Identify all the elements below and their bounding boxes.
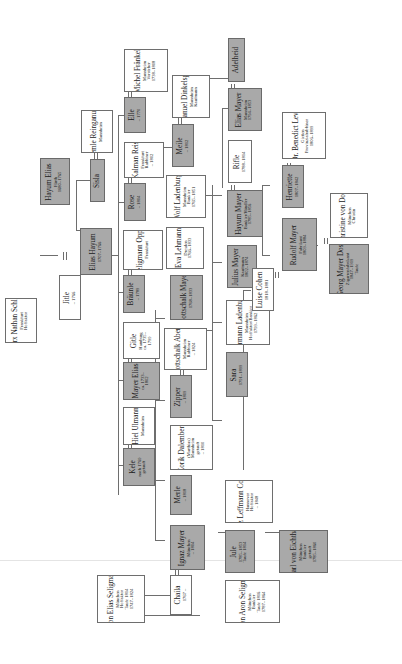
person-eva-lehmann: Eva LehmannDresden1766–1833 xyxy=(166,227,204,269)
connector xyxy=(212,322,222,323)
person-rudolf-mayer: Rudolf MayerFabrikant1809–1884 xyxy=(282,218,317,271)
person-georg-mayer-doss: Georg Mayer DossZigarrenfabrikant1847–19… xyxy=(329,244,369,294)
person-michel-fraenkel: Michel FränkelMannheimVorsteher1738–1808 xyxy=(124,49,168,92)
person-hayum-mayer: Hayum MayerBankier/Händler1785–1856 xyxy=(227,190,263,237)
connector xyxy=(212,262,222,263)
person-ignaz-mayer: Ignaz MayerMünchen– 1804 xyxy=(170,525,205,570)
person-elias-mayer: Elias MayerMannheim1794–1853 xyxy=(228,88,262,131)
connector xyxy=(262,255,270,256)
marriage-connector xyxy=(275,272,279,278)
connector xyxy=(212,420,222,421)
person-chaila: Chaila1767 – xyxy=(170,575,192,615)
connector xyxy=(118,115,119,495)
person-zipper: Zipper– 1809 xyxy=(170,375,192,418)
person-lemle-reinganum: Lemle ReinganumMannheim xyxy=(81,110,113,153)
person-merle: Merle– 1818 xyxy=(170,475,192,515)
person-simon-aron-seligmann: Simon Aron SeligmannMünchenBankierTaufe … xyxy=(225,580,280,623)
person-luise-cohen: Luise Cohen1818–1881 xyxy=(252,268,274,311)
person-emanuel-dinkelspiel: Emanuel DinkelspielMannheimKaufmann xyxy=(172,75,210,118)
marriage-connector xyxy=(324,238,328,244)
person-benedict-levi: Dr. Benedict LeviGießenProvinzialrabbine… xyxy=(282,112,326,159)
person-marx-nathan-schloss: Marx Nathan SchlossFrankfurtHoffaktor xyxy=(5,298,37,343)
person-wolf-ladenburg: Wolf LadenburgMannheimBankier1765–1851 xyxy=(166,175,206,218)
connector xyxy=(155,318,165,319)
person-karl-von-eichthal: Karl von EichthalMünchenBankiergetauft17… xyxy=(279,530,328,573)
family-tree-diagram: Hayum EliasFürth1680–1765 Lemle Reinganu… xyxy=(0,0,402,664)
person-jitle: Jitle– 1766 xyxy=(59,275,81,320)
person-hiel-ulmann: Hiel UlmannMannheim xyxy=(123,407,155,445)
person-sisla: Sisla xyxy=(90,159,105,202)
person-braeunle: Bräunle– 1789 xyxy=(123,275,145,313)
person-hayum-elias: Hayum EliasFürth1680–1765 xyxy=(40,158,70,205)
connector xyxy=(265,532,279,533)
person-elle: Elle– 1770 xyxy=(124,97,146,133)
person-herz-leffmann-cohen: Herz Leffmann CohenHannoverHoffaktor– 18… xyxy=(225,480,273,523)
connector xyxy=(262,185,270,186)
connector xyxy=(40,255,58,256)
connector xyxy=(76,180,90,181)
person-meile: Meile– 1812 xyxy=(172,124,194,167)
connector xyxy=(155,540,165,541)
person-aron-elias-seligmann: Aron Elias SeligmannMünchenHoffaktorTauf… xyxy=(97,575,145,623)
person-gottschalk-mayer: Gottschalk Mayer1768–1833 xyxy=(170,275,203,320)
person-gitle: GitleHamburgca. 1735–1799 xyxy=(123,322,160,359)
connector xyxy=(145,595,170,596)
person-adelheid: Adelheid xyxy=(228,38,245,82)
person-christine-von-doss: Christine von DossMünchenChristin xyxy=(330,193,368,238)
connector xyxy=(155,400,165,401)
person-mayer-elias: Mayer Eliasca. 1733–1802 xyxy=(123,362,160,400)
connector xyxy=(212,185,213,420)
connector xyxy=(155,480,165,481)
person-jule: Jule1785–1853Taufe 1814 xyxy=(225,530,255,573)
person-kele: Kelenach 1769getauft xyxy=(123,448,155,486)
connector xyxy=(243,290,251,291)
person-rifle: Rifle1788–1814 xyxy=(228,140,252,183)
connector xyxy=(145,615,200,616)
connector xyxy=(222,108,223,188)
connector xyxy=(112,255,118,256)
person-wolf-seligmann-oppenheim: Wolf Seligmann OppenheimFrankfurt xyxy=(123,230,163,270)
person-henriette: Henriette1807–1842 xyxy=(282,165,304,208)
person-rose: Rose– 1804 xyxy=(124,183,146,221)
person-kalman-reis: Kalman ReisFrankfurtRabbiner– 1802 xyxy=(124,142,164,178)
connector xyxy=(212,195,222,196)
person-gottschalk-abenz: Gottschalk AbenzMannheimRabbiner– 1824 xyxy=(164,328,207,370)
person-sara: Sara1791–1899 xyxy=(226,352,248,397)
person-zorik-dalemberr: Zorik Dalemberr(Marthias)Mannheimgetauft… xyxy=(170,425,213,470)
connector xyxy=(76,180,77,230)
marriage-connector xyxy=(63,252,67,260)
person-elias-hayum: Elias Hayum1707–1766 xyxy=(80,228,112,275)
